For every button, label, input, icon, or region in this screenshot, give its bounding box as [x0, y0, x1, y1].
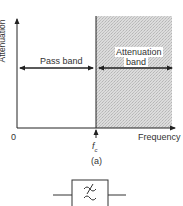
- x-axis-label: Frequency: [138, 132, 181, 142]
- attenuation-band-label-line2: band: [124, 57, 148, 67]
- pass-band-label: Pass band: [40, 56, 83, 66]
- cutoff-subscript: c: [95, 147, 98, 153]
- filter-symbol-icon: [53, 180, 126, 206]
- origin-label: 0: [11, 132, 16, 142]
- figure-caption: (a): [91, 156, 102, 166]
- attenuation-band-label-line1: Attenuation: [115, 47, 163, 57]
- y-axis-label: Attenuation: [0, 19, 7, 62]
- filter-diagram: [0, 0, 183, 206]
- cutoff-frequency-label: fc: [92, 141, 98, 155]
- attenuation-band-region: [96, 16, 172, 128]
